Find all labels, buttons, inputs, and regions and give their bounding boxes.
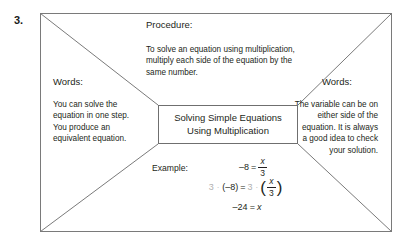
procedure-body: To solve an equation using multiplicatio… (146, 44, 336, 78)
procedure-heading: Procedure: (146, 19, 192, 30)
step2-right-dot: · (254, 183, 261, 192)
step1-fraction: x 3 (258, 157, 267, 177)
words-right-line: your solution. (266, 145, 378, 156)
worksheet-page: 3. Solving Simple Equations Using Multip… (0, 0, 415, 249)
words-left-line: You can solve the (53, 99, 163, 110)
procedure-line: To solve an equation using multiplicatio… (146, 44, 336, 55)
example-label: Example: (152, 163, 188, 173)
left-paren: ( (260, 179, 266, 196)
problem-number: 3. (14, 14, 23, 26)
step3-equals: = (249, 202, 256, 212)
words-left-body: You can solve the equation in one step. … (53, 99, 163, 145)
center-concept-box: Solving Simple Equations Using Multiplic… (158, 105, 298, 144)
procedure-line: multiply each side of the equation by th… (146, 55, 336, 66)
words-left-line: You produce an (53, 122, 163, 133)
center-box-line-2: Using Multiplication (187, 125, 269, 138)
words-left-line: equation in one step. (53, 110, 163, 121)
step2-left-dot: · (215, 183, 222, 192)
step1-numerator: x (259, 157, 267, 166)
step1-equals: = (250, 162, 257, 172)
example-step-2: 3 · (–8) = 3 · ( x 3 ) (185, 177, 305, 197)
words-left-heading: Words: (53, 76, 83, 87)
step2-denominator: 3 (267, 189, 276, 198)
step3-lhs: –24 (232, 202, 249, 212)
center-box-line-1: Solving Simple Equations (174, 112, 282, 125)
procedure-line: same number. (146, 67, 336, 78)
step1-denominator: 3 (258, 169, 267, 178)
step3-rhs: x (256, 202, 263, 212)
step2-lhs: (–8) (221, 182, 239, 192)
step2-equals: = (239, 182, 246, 192)
step2-numerator: x (267, 177, 275, 186)
step1-lhs: –8 (238, 162, 250, 172)
step2-fraction: x 3 (267, 177, 276, 197)
example-step-1: –8 = x 3 (185, 157, 305, 177)
words-right-heading: Words: (322, 76, 352, 87)
step2-right-factor: 3 (247, 182, 254, 192)
step2-left-factor: 3 (208, 182, 215, 192)
words-left-line: equivalent equation. (53, 133, 163, 144)
right-paren: ) (277, 179, 283, 196)
example-worked-solution: –8 = x 3 3 · (–8) = 3 · ( x 3 ) –24 (185, 157, 305, 217)
example-step-3: –24 = x (185, 197, 305, 217)
